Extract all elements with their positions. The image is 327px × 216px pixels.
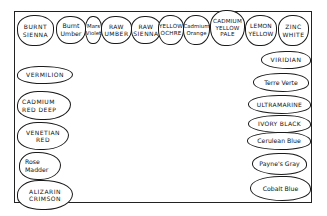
label-line: PALE: [213, 31, 242, 38]
label-line: Violet: [86, 30, 101, 37]
label-line: OCHRE: [159, 30, 183, 37]
paint-well-raw-umber: RAWUMBER: [101, 16, 132, 44]
paint-well-zinc-white: ZINCWHITE: [278, 15, 309, 46]
paint-well-cadmium-red-deep: CADMIUMRED DEEP: [17, 91, 71, 120]
paint-well-paynes-gray: Payne's Gray: [252, 153, 307, 175]
label-line: VENETIAN: [26, 129, 60, 137]
label-line: Cobalt Blue: [263, 185, 299, 193]
label-line: SIENNA: [133, 30, 158, 38]
label-line: RAW: [104, 23, 128, 31]
paint-well-vermilion: VERMILION: [17, 66, 73, 84]
paint-well-cerulean-blue: Cerulean Blue: [247, 132, 311, 150]
paint-well-lemon-yellow: LEMONYELLOW: [245, 15, 277, 46]
label-line: ULTRAMARINE: [257, 101, 302, 109]
label-line: Orange: [184, 30, 210, 37]
paint-well-mars-violet: MarsViolet: [85, 16, 102, 44]
label-line: RED: [26, 136, 60, 144]
label-line: IVORY BLACK: [258, 120, 301, 128]
label-line: Umber: [61, 30, 82, 38]
paint-well-cadmium-yellow-pale: CADMIUMYELLOWPALE: [210, 10, 245, 46]
label-line: Burnt: [61, 22, 82, 30]
paint-well-ultramarine: ULTRAMARINE: [248, 95, 311, 114]
paint-well-venetian-red: VENETIANRED: [17, 122, 69, 150]
paint-well-cobalt-blue: Cobalt Blue: [250, 176, 311, 201]
label-line: Cadmium: [184, 23, 210, 30]
label-line: RED DEEP: [22, 106, 56, 114]
label-line: Payne's Gray: [259, 160, 299, 168]
paint-well-yellow-ochre: YELLOWOCHRE: [158, 15, 184, 45]
label-line: YELLOW: [213, 25, 242, 32]
label-line: CRIMSON: [29, 195, 61, 203]
paint-well-ivory-black: IVORY BLACK: [248, 115, 311, 133]
paint-well-raw-sienna: RAWSIENNA: [131, 16, 161, 44]
paint-well-terre-verte: Terre Verte: [253, 73, 309, 92]
label-line: VERMILION: [26, 71, 64, 79]
label-line: CADMIUM: [22, 98, 56, 106]
label-line: BURNT: [23, 23, 48, 31]
label-line: YELLOW: [249, 31, 274, 38]
label-line: LEMON: [249, 23, 274, 30]
label-line: Rose: [25, 158, 48, 166]
paint-well-viridian: VIRIDIAN: [261, 51, 311, 69]
label-line: ALIZARIN: [29, 188, 61, 196]
paint-well-burnt-umber: BurntUmber: [56, 16, 86, 44]
label-line: ZINC: [282, 23, 304, 31]
label-line: UMBER: [104, 30, 128, 38]
paint-well-cadmium-orange: CadmiumOrange: [183, 15, 210, 45]
label-line: RAW: [133, 23, 158, 31]
label-line: Mars: [86, 23, 101, 30]
paint-well-alizarin-crimson: ALIZARINCRIMSON: [17, 180, 73, 210]
label-line: WHITE: [282, 31, 304, 39]
paint-well-rose-madder: RoseMadder: [19, 152, 61, 180]
label-line: YELLOW: [159, 23, 183, 30]
label-line: CADMIUM: [213, 18, 242, 25]
label-line: VIRIDIAN: [271, 56, 302, 64]
paint-well-burnt-sienna: BURNTSIENNA: [17, 15, 54, 46]
label-line: Madder: [25, 166, 48, 174]
label-line: Terre Verte: [264, 79, 297, 87]
label-line: Cerulean Blue: [257, 137, 301, 145]
label-line: SIENNA: [23, 31, 48, 39]
